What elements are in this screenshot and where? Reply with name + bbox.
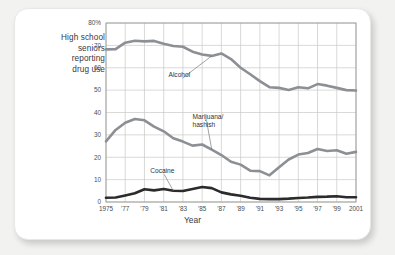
y-tick-50: 50 bbox=[94, 86, 102, 93]
series-line-cocaine bbox=[106, 187, 356, 199]
x-axis-tick-labels: 1975'77'79'81'83'85'87'89'91'93'95'97'99… bbox=[99, 205, 364, 212]
chart-card: High school seniors reporting drug use 0… bbox=[14, 8, 371, 240]
x-tick-'85: '85 bbox=[198, 205, 207, 212]
series-annotations: AlcoholMarijuana/hashishCocaine bbox=[150, 56, 223, 191]
y-axis-tick-labels: 01020304050607080% bbox=[88, 19, 101, 205]
y-tick-60: 60 bbox=[94, 64, 102, 71]
y-tick-70: 70 bbox=[94, 42, 102, 49]
x-tick-'77: '77 bbox=[121, 205, 130, 212]
x-tick-'91: '91 bbox=[256, 205, 265, 212]
x-tick-'79: '79 bbox=[140, 205, 149, 212]
y-tick-10: 10 bbox=[94, 176, 102, 183]
x-tick-'97: '97 bbox=[313, 205, 322, 212]
x-tick-'89: '89 bbox=[236, 205, 245, 212]
series-label-alcohol: Alcohol bbox=[169, 71, 191, 78]
line-chart: 01020304050607080% 1975'77'79'81'83'85'8… bbox=[15, 9, 370, 239]
x-tick-'87: '87 bbox=[217, 205, 226, 212]
gridlines bbox=[106, 23, 356, 202]
series-label-cocaine: Cocaine bbox=[150, 167, 175, 174]
x-tick-'95: '95 bbox=[294, 205, 303, 212]
x-axis-title: Year bbox=[15, 215, 370, 225]
series-label-marijuana-hashish: hashish bbox=[193, 121, 216, 128]
y-tick-30: 30 bbox=[94, 131, 102, 138]
x-tick-2001: 2001 bbox=[349, 205, 364, 212]
x-tick-'83: '83 bbox=[179, 205, 188, 212]
y-tick-20: 20 bbox=[94, 154, 102, 161]
x-tick-'93: '93 bbox=[275, 205, 284, 212]
x-tick-'81: '81 bbox=[160, 205, 169, 212]
y-tick-80%: 80% bbox=[88, 19, 101, 26]
y-tick-40: 40 bbox=[94, 109, 102, 116]
data-series-lines bbox=[106, 41, 356, 199]
series-line-marijuana-hashish bbox=[106, 119, 356, 175]
x-tick-1975: 1975 bbox=[99, 205, 114, 212]
plot-area: 01020304050607080% 1975'77'79'81'83'85'8… bbox=[15, 9, 370, 239]
x-tick-'99: '99 bbox=[333, 205, 342, 212]
series-line-alcohol bbox=[106, 41, 356, 91]
